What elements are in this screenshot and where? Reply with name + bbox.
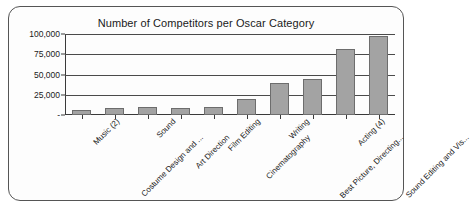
bar-slot (296, 34, 329, 115)
y-axis-tick-label: 75,000 (34, 49, 60, 59)
bar-slot (98, 34, 131, 115)
y-axis-tick-label: - (57, 110, 60, 120)
bar[interactable] (204, 107, 223, 115)
bar-slot (230, 34, 263, 115)
chart-title: Number of Competitors per Oscar Category (9, 17, 403, 29)
bar[interactable] (138, 107, 157, 115)
bar-slot (329, 34, 362, 115)
x-axis-tick-label: Music (2) (91, 117, 121, 147)
bar[interactable] (336, 49, 355, 115)
bar-series (65, 34, 395, 115)
bar-slot (263, 34, 296, 115)
plot-region: 100,00075,00050,00025,000- (65, 34, 395, 115)
bar[interactable] (105, 108, 124, 115)
bar[interactable] (270, 83, 289, 115)
bar-slot (131, 34, 164, 115)
y-axis-tick-label: 50,000 (34, 70, 60, 80)
x-axis-tick-label: Film Editing (226, 117, 262, 153)
y-axis-tick-label: 25,000 (34, 90, 60, 100)
bar-slot (164, 34, 197, 115)
x-axis-tick-label: Best Picture, Directing... (338, 133, 405, 200)
bar-slot (362, 34, 395, 115)
x-axis-tick-label: Cinematography (264, 133, 312, 181)
bar[interactable] (237, 99, 256, 115)
bar[interactable] (171, 108, 190, 115)
x-axis-tick-label: Sound (154, 117, 177, 140)
x-axis-tick-label: Acting (4) (356, 117, 387, 148)
bar-slot (65, 34, 98, 115)
x-axis-labels: Music (2)Costume Design and ...SoundArt … (65, 117, 395, 212)
bar[interactable] (369, 36, 388, 115)
bar[interactable] (303, 79, 322, 115)
y-axis-tick-label: 100,000 (29, 29, 60, 39)
bar-slot (197, 34, 230, 115)
chart-frame: Number of Competitors per Oscar Category… (8, 6, 404, 201)
x-axis-tick-label: Sound Editing and Vis... (403, 133, 470, 200)
